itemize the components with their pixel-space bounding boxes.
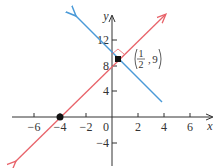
x-tick-label: 2 xyxy=(135,120,141,134)
chart: −6 −4 −2 0 2 4 6 12 8 4 −4 x y 1 2 , 9 xyxy=(0,0,223,168)
intersection-point xyxy=(115,56,121,62)
x-tick-label: 4 xyxy=(161,120,167,134)
svg-text:2: 2 xyxy=(139,59,144,70)
x-tick-label: 0 xyxy=(103,120,109,134)
x-axis-label: x xyxy=(206,119,213,133)
x-intercept-point xyxy=(57,114,64,121)
y-tick-label: −4 xyxy=(96,136,109,150)
svg-text:1: 1 xyxy=(139,48,144,59)
svg-text:,: , xyxy=(148,53,151,65)
x-tick-label: 6 xyxy=(187,120,193,134)
x-tick-label: −6 xyxy=(28,120,41,134)
y-axis-label: y xyxy=(102,9,109,23)
point-label: 1 2 , 9 xyxy=(135,48,161,70)
y-tick-label: 4 xyxy=(103,84,109,98)
svg-text:9: 9 xyxy=(152,53,158,65)
x-tick-label: −2 xyxy=(80,120,93,134)
y-tick-label: 12 xyxy=(97,33,109,47)
red-line xyxy=(15,15,165,162)
